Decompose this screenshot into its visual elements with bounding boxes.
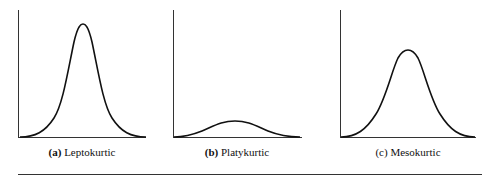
caption-label: (c) (375, 146, 387, 158)
panel-mesokurtic (340, 10, 476, 138)
caption-label: (b) (205, 146, 218, 158)
caption-label: (a) (49, 146, 62, 158)
caption-leptokurtic: (a) Leptokurtic (12, 146, 152, 158)
caption-platykurtic: (b) Platykurtic (167, 146, 307, 158)
caption-mesokurtic: (c) Mesokurtic (338, 146, 478, 158)
bottom-rule (18, 174, 482, 175)
panel-leptokurtic (18, 10, 146, 138)
panel-platykurtic (173, 10, 302, 138)
leptokurtic-curve (20, 24, 146, 137)
mesokurtic-curve (341, 50, 475, 137)
platykurtic-curve (174, 121, 300, 137)
caption-text: Leptokurtic (64, 146, 115, 158)
caption-text: Mesokurtic (390, 146, 440, 158)
caption-text: Platykurtic (221, 146, 269, 158)
